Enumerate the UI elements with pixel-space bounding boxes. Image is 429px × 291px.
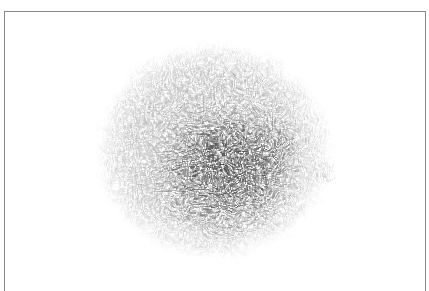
fur-ball-image [0, 0, 429, 280]
